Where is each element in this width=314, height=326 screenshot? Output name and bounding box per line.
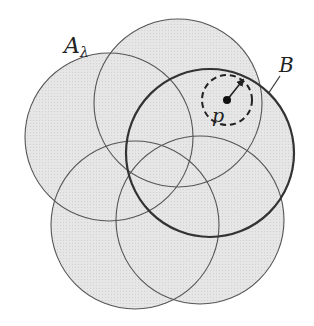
overlapping-circles-diagram bbox=[0, 0, 314, 326]
label-a-lambda: Aλ bbox=[64, 33, 89, 60]
point-p-dot bbox=[223, 96, 231, 104]
label-b: B bbox=[279, 53, 294, 77]
label-a-subscript: λ bbox=[80, 44, 89, 60]
label-a-main: A bbox=[64, 33, 80, 58]
label-p: p bbox=[212, 104, 224, 126]
circle-fills bbox=[25, 19, 294, 309]
